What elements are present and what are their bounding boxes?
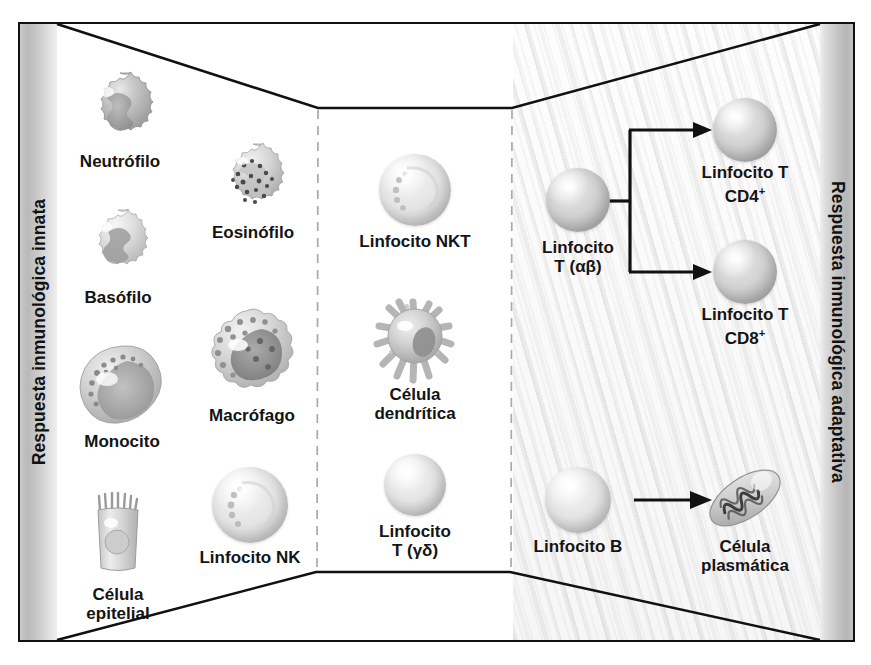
- linfocito-nk-granules: [212, 467, 288, 543]
- label-linfocito-nkt: Linfocito NKT: [359, 232, 470, 251]
- label-linfocito-t-cd4-sup: +: [759, 185, 765, 197]
- cell-neutrofilo: [80, 70, 160, 150]
- label-celula-dendritica: Célula dendrítica: [374, 385, 455, 423]
- label-linfocito-b: Linfocito B: [534, 537, 623, 556]
- label-linfocito-t-cd4-text: Linfocito T CD4: [702, 163, 789, 206]
- innate-response-band: Respuesta inmunológica innata: [20, 24, 57, 640]
- cell-linfocito-b: [545, 467, 611, 533]
- linfocito-nkt-granules: [379, 154, 451, 226]
- macrofago-icon: [200, 307, 304, 403]
- label-linfocito-t-cd8-text: Linfocito T CD8: [702, 305, 789, 348]
- eosinofilo-icon: [214, 141, 292, 219]
- label-celula-epitelial: Célula epitelial: [86, 585, 149, 623]
- label-neutrofilo: Neutrófilo: [80, 152, 160, 171]
- label-basofilo: Basófilo: [84, 288, 151, 307]
- cell-macrofago: [200, 307, 304, 403]
- label-linfocito-t-cd4: Linfocito T CD4+: [682, 163, 808, 206]
- adaptive-response-band: Respuesta inmunológica adaptativa: [820, 24, 853, 640]
- adaptive-response-label: Respuesta inmunológica adaptativa: [826, 181, 847, 483]
- cell-linfocito-nkt: [379, 154, 451, 226]
- label-linfocito-t-cd8: Linfocito T CD8+: [682, 305, 808, 348]
- neutrofilo-icon: [80, 70, 160, 150]
- label-macrofago: Macrófago: [209, 406, 295, 425]
- cell-linfocito-nk: [212, 467, 288, 543]
- label-linfocito-t-ab: Linfocito T (αβ): [542, 238, 614, 276]
- monocito-icon: [75, 343, 169, 427]
- cell-eosinofilo: [214, 141, 292, 219]
- cell-linfocito-t-ab: [546, 168, 610, 232]
- celula-plasmatica-icon: [698, 459, 792, 537]
- celula-dendritica-icon: [367, 292, 463, 388]
- basofilo-icon: [80, 207, 156, 283]
- label-linfocito-t-cd8-sup: +: [759, 327, 765, 339]
- label-linfocito-nk: Linfocito NK: [199, 548, 300, 567]
- cell-linfocito-t-cd8: [713, 240, 777, 304]
- label-celula-plasmatica: Célula plasmática: [682, 537, 808, 575]
- innate-response-label: Respuesta inmunológica innata: [28, 199, 49, 465]
- label-linfocito-t-gd: Linfocito T (γδ): [379, 522, 451, 560]
- cell-celula-dendritica: [367, 292, 463, 388]
- cell-linfocito-t-gd: [384, 454, 446, 516]
- cell-linfocito-t-cd4: [713, 98, 777, 162]
- cell-monocito: [75, 343, 169, 427]
- cell-celula-epitelial: [85, 490, 151, 580]
- celula-epitelial-icon: [85, 490, 151, 580]
- cell-celula-plasmatica: [698, 459, 792, 537]
- label-eosinofilo: Eosinófilo: [212, 223, 294, 242]
- cell-basofilo: [80, 207, 156, 283]
- label-monocito: Monocito: [84, 432, 160, 451]
- immunology-diagram: Respuesta inmunológica innata Respuesta …: [0, 0, 871, 665]
